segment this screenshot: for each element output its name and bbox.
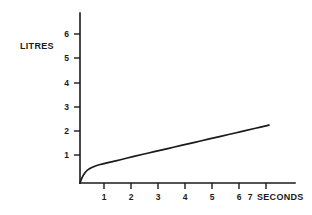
chart-container: 1 2 3 4 5 6 1 2 3 4 5 6 7 SECOND: [0, 0, 312, 215]
y-tick-label-2: 2: [64, 126, 69, 136]
x-tick-label-1: 1: [102, 192, 107, 202]
x-tick-label-4: 4: [183, 192, 188, 202]
x-tick-label-7: 7: [248, 192, 253, 202]
x-tick-label-3: 3: [156, 192, 161, 202]
y-axis-title: LITRES: [20, 41, 54, 51]
y-tick-label-1: 1: [64, 150, 69, 160]
y-tick-label-3: 3: [64, 102, 69, 112]
litres-seconds-line-chart: 1 2 3 4 5 6 1 2 3 4 5 6 7 SECOND: [0, 0, 312, 215]
y-tick-label-4: 4: [64, 78, 69, 88]
x-tick-label-2: 2: [129, 192, 134, 202]
x-tick-label-5: 5: [210, 192, 215, 202]
x-axis-title: SECONDS: [257, 192, 304, 202]
x-tick-label-6: 6: [237, 192, 242, 202]
y-tick-label-5: 5: [64, 53, 69, 63]
y-tick-label-6: 6: [64, 29, 69, 39]
